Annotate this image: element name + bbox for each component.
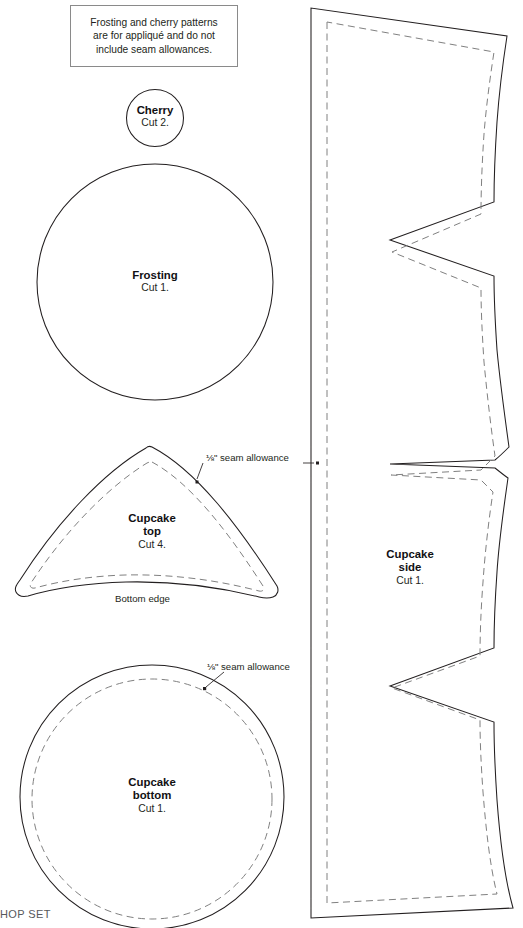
pattern-note-box: Frosting and cherry patterns are for app…: [70, 5, 238, 67]
seam-allowance-label-bottom: ⅛" seam allowance: [207, 661, 290, 672]
cupcake-top-bottom-edge-label: Bottom edge: [115, 593, 170, 604]
seam-allowance-label-top: ⅛" seam allowance: [206, 452, 289, 463]
cupcake-side-seam-line: [327, 22, 497, 903]
cupcake-bottom-cut-line: [20, 665, 284, 928]
frosting-cut-line: [37, 164, 273, 400]
pattern-drawing: [0, 0, 523, 928]
cupcake-bottom-seam-line: [32, 679, 272, 919]
pattern-sheet: Frosting and cherry patterns are for app…: [0, 0, 523, 928]
cupcake-top-seam-dot: [196, 481, 199, 484]
cupcake-top-seam-leader: [197, 463, 203, 479]
note-line-2: are for appliqué and do not: [93, 29, 215, 43]
cherry-cut-line: [127, 90, 184, 147]
cupcake-side-seam-dot: [316, 462, 319, 465]
note-line-1: Frosting and cherry patterns: [90, 16, 217, 30]
cupcake-top-seam-line: [30, 462, 264, 591]
note-line-3: include seam allowances.: [96, 43, 212, 57]
cupcake-bottom-seam-dot: [203, 687, 206, 690]
footer-clipped-text: HOP SET: [0, 908, 51, 928]
